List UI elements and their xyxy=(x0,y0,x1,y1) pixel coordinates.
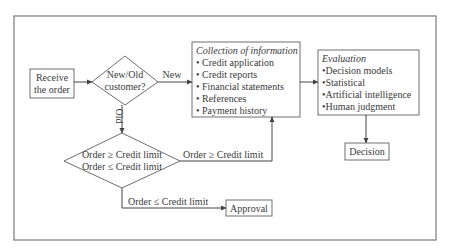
credit-limit-line-1: Order ≥ Credit limit xyxy=(82,149,162,160)
collection-title: Collection of information xyxy=(196,45,298,56)
decision-node: Decision xyxy=(345,143,389,160)
edge-under-limit-label: Order ≤ Credit limit xyxy=(128,196,208,207)
approval-node: Approval xyxy=(226,200,272,216)
edge-new-label: New xyxy=(163,69,183,80)
decision-label: Decision xyxy=(349,146,385,157)
new-old-line-1: New/Old xyxy=(107,69,144,80)
collection-item: • Payment history xyxy=(196,105,267,116)
collection-item: • Credit application xyxy=(196,57,274,68)
receive-order-node: Receive the order xyxy=(30,69,74,98)
edge-old-label: Old xyxy=(114,109,125,124)
evaluation-node: Evaluation •Decision models •Statistical… xyxy=(318,50,419,115)
edge-over-limit-label: Order ≥ Credit limit xyxy=(183,149,263,160)
evaluation-title: Evaluation xyxy=(321,53,366,64)
collection-item: • References xyxy=(196,93,247,104)
new-old-customer-decision: New/Old customer? xyxy=(92,56,158,105)
evaluation-item: •Human judgment xyxy=(322,101,395,112)
evaluation-item: •Statistical xyxy=(322,77,365,88)
new-old-line-2: customer? xyxy=(104,81,146,92)
credit-limit-line-2: Order ≤ Credit limit xyxy=(82,161,162,172)
collection-item: • Financial statements xyxy=(196,81,284,92)
receive-order-line-1: Receive xyxy=(36,72,69,83)
receive-order-line-2: the order xyxy=(34,84,70,95)
credit-limit-decision: Order ≥ Credit limit Order ≤ Credit limi… xyxy=(64,133,180,188)
collection-node: Collection of information • Credit appli… xyxy=(192,42,300,117)
evaluation-item: •Artificial intelligence xyxy=(322,89,412,100)
evaluation-item: •Decision models xyxy=(322,65,393,76)
collection-item: • Credit reports xyxy=(196,69,257,80)
approval-label: Approval xyxy=(230,203,268,214)
flowchart-canvas: Receive the order New/Old customer? New … xyxy=(0,0,453,252)
